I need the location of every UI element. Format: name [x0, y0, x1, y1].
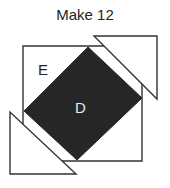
quilt-block-diagram: E D — [0, 0, 170, 188]
label-d: D — [75, 99, 86, 116]
label-e: E — [38, 61, 48, 78]
